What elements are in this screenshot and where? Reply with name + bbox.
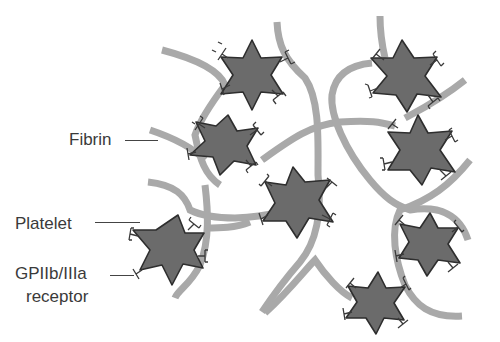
platelet-icon xyxy=(346,272,405,334)
platelet-label: Platelet xyxy=(15,214,72,233)
fibrin-strand xyxy=(148,182,280,218)
platelet-icon xyxy=(399,213,460,276)
receptor-icon xyxy=(188,217,201,230)
fibrin-strand xyxy=(205,222,250,228)
fibrin-strand xyxy=(262,121,395,160)
receptor-icon xyxy=(448,262,458,272)
fibrin-strand xyxy=(380,16,385,58)
fibrin-leader-line xyxy=(125,140,158,141)
receptor-leader-line xyxy=(110,275,134,276)
receptor-label-line1: GPIIb/IIIa xyxy=(15,264,87,283)
receptor-icon xyxy=(133,269,142,279)
receptor-label-line2: receptor xyxy=(26,287,88,306)
fibrin-label: Fibrin xyxy=(69,130,112,149)
platelet-leader-line xyxy=(95,222,140,223)
